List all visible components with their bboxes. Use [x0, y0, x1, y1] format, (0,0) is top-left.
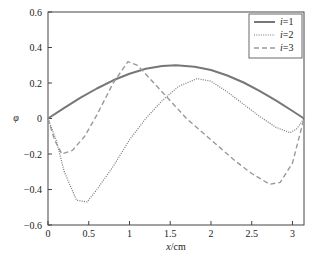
x-axis-label: x/cm	[165, 241, 186, 252]
y-axis-label: φ	[13, 112, 19, 123]
y-tick-label: 0.4	[30, 42, 43, 53]
series-line-2	[48, 79, 304, 202]
x-tick-label: 0	[46, 228, 51, 239]
x-tick-label: 2.5	[245, 228, 258, 239]
y-tick-label: 0	[37, 113, 42, 124]
y-tick-label: 0.6	[30, 7, 43, 18]
x-tick-label: 1.5	[164, 228, 177, 239]
x-tick-label: 0.5	[82, 228, 95, 239]
x-tick-label: 1	[127, 228, 132, 239]
series-layer	[48, 62, 304, 202]
legend: i=1i=2i=3	[249, 14, 302, 58]
line-chart: 0.60.40.20−0.2−0.4−0.6 00.511.522.53 i=1…	[0, 0, 311, 259]
y-tick-label: −0.2	[24, 149, 42, 160]
y-tick-label: −0.4	[24, 184, 42, 195]
legend-box	[249, 14, 302, 58]
x-tick-label: 2	[208, 228, 213, 239]
legend-label-3: i=3	[280, 42, 293, 53]
legend-label-1: i=1	[280, 16, 293, 27]
x-axis: 00.511.522.53	[46, 221, 295, 239]
series-line-1	[48, 65, 304, 118]
series-line-3	[48, 62, 304, 185]
x-axis-label-unit: /cm	[171, 241, 186, 252]
y-tick-label: −0.6	[24, 220, 42, 231]
legend-label-2: i=2	[280, 29, 293, 40]
x-tick-label: 3	[290, 228, 295, 239]
y-tick-label: 0.2	[30, 78, 43, 89]
